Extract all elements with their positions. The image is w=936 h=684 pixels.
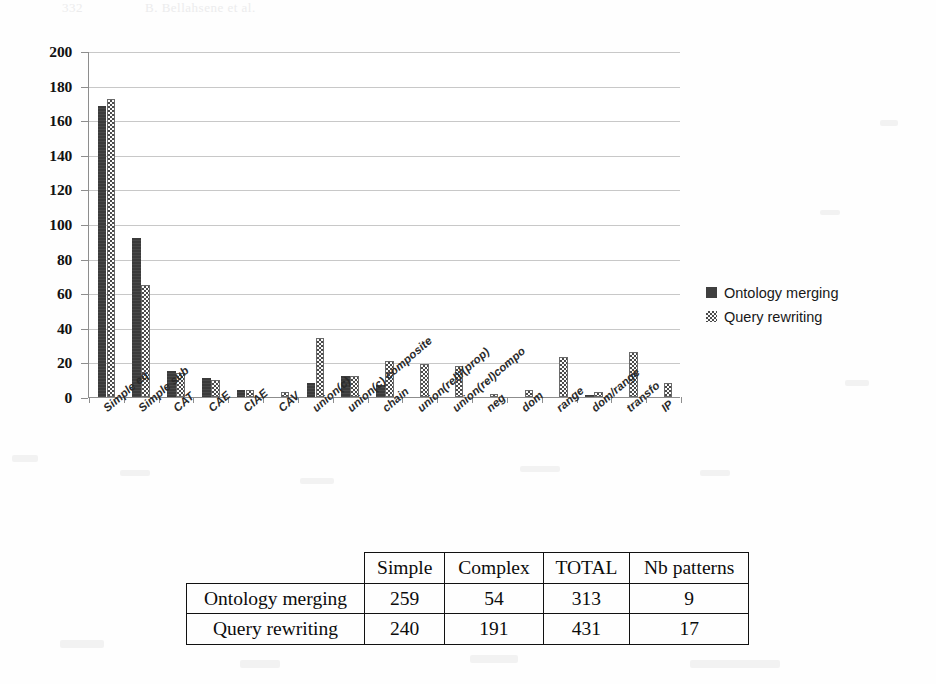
running-title: B. Bellahsene et al. — [145, 0, 256, 15]
y-tick-mark — [81, 225, 88, 226]
bar-ontology-merging — [585, 395, 594, 397]
column-header-complex: Complex — [445, 553, 543, 584]
cell-total: 431 — [543, 614, 630, 645]
y-tick-mark — [81, 52, 88, 53]
chart-legend: Ontology merging Query rewriting — [706, 282, 906, 330]
cell-total: 313 — [543, 583, 630, 614]
bar-ontology-merging — [98, 106, 107, 397]
y-tick-mark — [81, 398, 88, 399]
gridline — [89, 52, 680, 53]
y-tick-label: 200 — [16, 43, 72, 61]
bar-query-rewriting — [420, 364, 429, 397]
plot-area — [88, 52, 680, 398]
legend-item-query-rewriting: Query rewriting — [706, 306, 906, 327]
scan-artifact — [470, 655, 518, 663]
cell-nb-patterns: 17 — [630, 614, 749, 645]
bar-query-rewriting — [316, 338, 325, 397]
column-header-nb-patterns: Nb patterns — [630, 553, 749, 584]
cell-complex: 191 — [445, 614, 543, 645]
gridline — [89, 329, 680, 330]
y-tick-label: 120 — [16, 181, 72, 199]
y-tick-label: 60 — [16, 285, 72, 303]
gridline — [89, 121, 680, 122]
y-tick-label: 0 — [16, 389, 72, 407]
y-tick-mark — [81, 190, 88, 191]
legend-item-ontology-merging: Ontology merging — [706, 282, 906, 303]
solid-square-icon — [706, 287, 717, 298]
scan-artifact — [690, 660, 780, 668]
gridline — [89, 156, 680, 157]
summary-table-container: Simple Complex TOTAL Nb patterns Ontolog… — [186, 552, 749, 645]
gridline — [89, 190, 680, 191]
y-tick-label: 80 — [16, 251, 72, 269]
legend-label: Ontology merging — [724, 285, 838, 301]
column-header-simple: Simple — [364, 553, 444, 584]
y-tick-mark — [81, 260, 88, 261]
cell-simple: 240 — [364, 614, 444, 645]
column-header-total: TOTAL — [543, 553, 630, 584]
bar-ontology-merging — [202, 378, 211, 397]
bar-query-rewriting — [664, 383, 673, 397]
x-category-label: IP — [659, 398, 675, 414]
y-tick-label: 100 — [16, 216, 72, 234]
bar-chart-figure: 200180160140120100806040200 Ontology mer… — [0, 30, 936, 500]
table-corner-cell — [187, 553, 365, 584]
gridline — [89, 260, 680, 261]
y-tick-mark — [81, 121, 88, 122]
x-tick-mark — [681, 397, 682, 403]
summary-table-head: Simple Complex TOTAL Nb patterns — [187, 553, 749, 584]
y-tick-mark — [81, 156, 88, 157]
summary-table: Simple Complex TOTAL Nb patterns Ontolog… — [186, 552, 749, 645]
y-tick-mark — [81, 87, 88, 88]
row-header-query-rewriting: Query rewriting — [187, 614, 365, 645]
bar-ontology-merging — [237, 390, 246, 397]
summary-table-body: Ontology merging 259 54 313 9 Query rewr… — [187, 583, 749, 644]
legend-label: Query rewriting — [724, 309, 822, 325]
cell-complex: 54 — [445, 583, 543, 614]
gridline — [89, 225, 680, 226]
bar-query-rewriting — [559, 357, 568, 397]
y-tick-label: 40 — [16, 320, 72, 338]
table-header-row: Simple Complex TOTAL Nb patterns — [187, 553, 749, 584]
y-tick-mark — [81, 329, 88, 330]
table-row: Ontology merging 259 54 313 9 — [187, 583, 749, 614]
scan-artifact — [240, 660, 280, 668]
y-tick-label: 140 — [16, 147, 72, 165]
bar-ontology-merging — [307, 383, 316, 397]
gridline — [89, 294, 680, 295]
scan-artifact — [60, 640, 104, 648]
page-number: 332 — [62, 0, 83, 15]
cell-simple: 259 — [364, 583, 444, 614]
page-running-header: 332B. Bellahsene et al. — [62, 0, 582, 16]
gridline — [89, 87, 680, 88]
table-row: Query rewriting 240 191 431 17 — [187, 614, 749, 645]
y-tick-label: 20 — [16, 354, 72, 372]
x-tick-mark — [89, 397, 90, 403]
y-tick-mark — [81, 294, 88, 295]
checkered-square-icon — [706, 311, 717, 322]
y-tick-label: 180 — [16, 78, 72, 96]
cell-nb-patterns: 9 — [630, 583, 749, 614]
y-tick-mark — [81, 363, 88, 364]
y-tick-label: 160 — [16, 112, 72, 130]
row-header-ontology-merging: Ontology merging — [187, 583, 365, 614]
bar-query-rewriting — [107, 99, 116, 397]
